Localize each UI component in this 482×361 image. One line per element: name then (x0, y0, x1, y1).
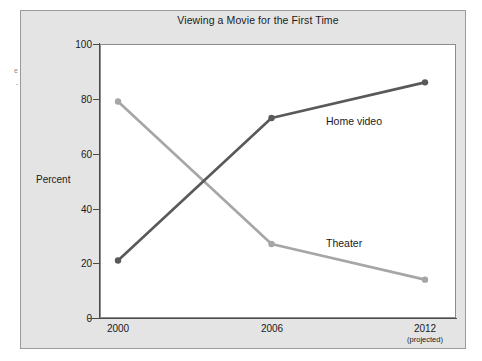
x-tick-label-2012: 2012 (390, 323, 460, 334)
y-tick-mark-60 (93, 154, 99, 155)
y-tick-mark-40 (93, 209, 99, 210)
y-tick-label-20: 20 (58, 258, 92, 269)
y-axis-line (99, 43, 100, 319)
x-tick-label-2006: 2006 (237, 323, 307, 334)
y-tick-mark-20 (93, 263, 99, 264)
y-tick-mark-100 (93, 44, 99, 45)
x-axis-line (88, 318, 457, 319)
y-tick-label-60: 60 (58, 149, 92, 160)
y-tick-label-80: 80 (58, 94, 92, 105)
x-tick-sublabel-2012: (projected) (390, 335, 460, 344)
margin-note-line: e (0, 64, 18, 77)
margin-note-line: - (0, 77, 18, 90)
plot-area (100, 44, 456, 318)
x-tick-label-2000: 2000 (83, 323, 153, 334)
margin-notes: e - (0, 64, 18, 90)
y-tick-mark-80 (93, 99, 99, 100)
y-tick-label-40: 40 (58, 204, 92, 215)
series-annotation-home-video: Home video (326, 115, 382, 127)
series-annotation-theater: Theater (326, 237, 362, 249)
chart-title: Viewing a Movie for the First Time (80, 14, 436, 26)
y-tick-label-100: 100 (58, 39, 92, 50)
y-axis-tick-group: 100 80 60 40 20 0 (54, 0, 92, 361)
